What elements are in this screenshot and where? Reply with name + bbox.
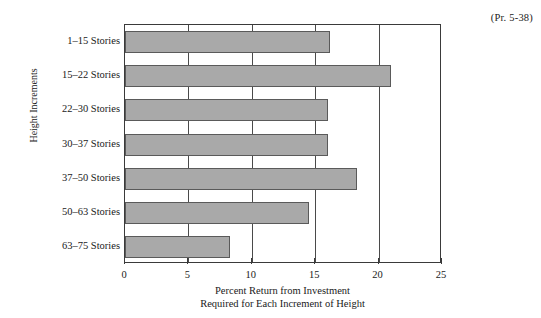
x-tick-label: 15 [299,269,329,280]
y-axis-tick-label: 1–15 Stories [38,35,120,46]
bar [125,236,230,258]
x-tick-label: 25 [426,269,456,280]
x-tick-mark-15 [314,258,315,264]
x-axis-title-line-2: Required for Each Increment of Height [124,297,441,310]
x-tick-mark-5 [187,258,188,264]
x-tick-label: 20 [363,269,393,280]
bar-chart-figure: (Pr. 5-38) Height Increments 1–15 Storie… [0,0,541,318]
bar [125,168,357,190]
x-tick-mark-20 [378,258,379,264]
problem-reference-annotation: (Pr. 5-38) [491,12,533,23]
y-axis-tick-label: 15–22 Stories [38,69,120,80]
x-tick-mark-10 [251,258,252,264]
x-tick-label: 0 [109,269,139,280]
gridline-x-20 [379,25,380,262]
x-axis-title: Percent Return from Investment Required … [124,284,441,310]
x-axis-title-line-1: Percent Return from Investment [124,284,441,297]
x-axis-ticks: 0510152025 [124,263,441,269]
y-axis-tick-label: 30–37 Stories [38,138,120,149]
y-axis-title: Height Increments [28,51,39,161]
x-tick-mark-25 [441,258,442,264]
bar [125,202,309,224]
bar [125,99,328,121]
bar [125,65,391,87]
bar [125,134,328,156]
x-tick-label: 10 [236,269,266,280]
y-axis-tick-label: 50–63 Stories [38,206,120,217]
category-label-column: 1–15 Stories15–22 Stories22–30 Stories30… [38,24,120,263]
x-tick-label: 5 [172,269,202,280]
plot-area [124,24,441,263]
y-axis-tick-label: 63–75 Stories [38,240,120,251]
y-axis-tick-label: 22–30 Stories [38,103,120,114]
y-axis-tick-label: 37–50 Stories [38,172,120,183]
bar [125,31,330,53]
x-tick-mark-0 [124,258,125,264]
